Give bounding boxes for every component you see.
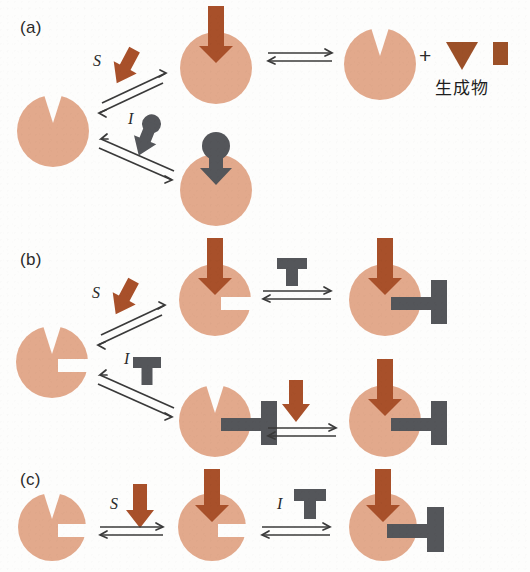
panel-c-enzyme-substrate-complex — [178, 469, 246, 561]
panel-b-enzyme-substrate-inhibitor-complex — [349, 238, 447, 336]
panel-b-equilibrium-lower — [98, 370, 174, 420]
panel-b-inhibitor-label: I — [124, 350, 129, 368]
panel-c-substrate-label: S — [110, 495, 118, 513]
panel-a-free-enzyme-after-catalysis — [344, 28, 416, 100]
panel-a-product-triangle — [446, 42, 478, 70]
panel-c-equilibrium-second — [262, 523, 330, 538]
panel-a-substrate-label: S — [93, 52, 101, 70]
panel-b-enzyme-substrate-complex — [179, 238, 251, 336]
panel-c-free-enzyme — [18, 493, 86, 561]
panel-a-product-label: 生成物 — [435, 74, 489, 99]
panel-b-inhibitor-icon-top — [277, 258, 307, 286]
panel-b-graphics — [16, 238, 447, 457]
panel-label-b: (b) — [20, 250, 42, 270]
enzyme-inhibition-figure: (a) S I + 生成物 (b) S I (c) S I — [0, 0, 530, 572]
panel-b-enzyme-inhibitor-complex — [179, 385, 277, 457]
panel-a-enzyme-inhibitor-complex — [180, 132, 252, 226]
panel-c-inhibitor-label: I — [277, 495, 282, 513]
panel-c-enzyme-substrate-inhibitor-complex — [349, 469, 444, 561]
panel-b-equilibrium-top-right — [263, 287, 331, 302]
panel-b-inhibitor-icon — [133, 357, 161, 385]
panel-label-a: (a) — [20, 18, 42, 38]
panel-b-enzyme-inhibitor-substrate-complex — [349, 359, 447, 457]
panel-b-equilibrium-upper — [98, 302, 165, 349]
panel-b-equilibrium-bottom-right — [268, 424, 336, 439]
panel-a-plus-sign: + — [419, 44, 431, 68]
panel-a-substrate-icon — [105, 44, 146, 90]
panel-a-equilibrium-catalysis — [268, 49, 332, 64]
panel-a-free-enzyme — [17, 95, 89, 167]
panel-c-equilibrium-first — [100, 523, 163, 538]
panel-b-free-enzyme — [16, 326, 88, 398]
panel-label-c: (c) — [20, 470, 41, 490]
panel-b-substrate-icon-bottom — [282, 380, 310, 422]
panel-c-substrate-icon — [126, 484, 154, 528]
panel-c-inhibitor-icon — [294, 489, 326, 519]
panel-a-graphics — [17, 6, 508, 226]
panel-c-graphics — [18, 469, 444, 561]
panel-a-product-rectangle — [493, 42, 508, 65]
panel-a-inhibitor-label: I — [128, 110, 133, 128]
panel-a-enzyme-substrate-complex — [180, 6, 252, 104]
panel-b-substrate-icon — [104, 275, 145, 321]
panel-b-substrate-label: S — [92, 284, 100, 302]
